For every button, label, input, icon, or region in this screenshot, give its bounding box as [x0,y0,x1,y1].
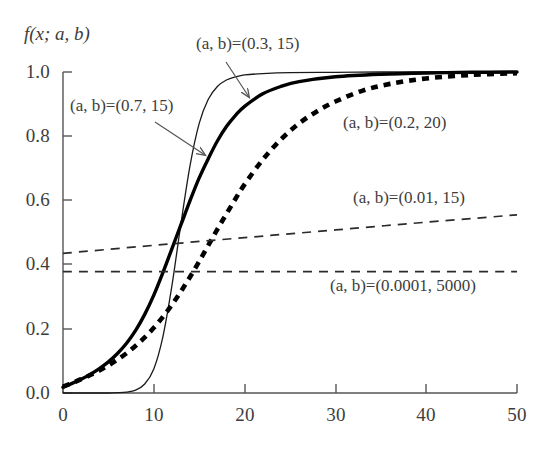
series-label-0.7-15: (a, b)=(0.7, 15) [70,96,174,116]
y-tick-label-0.8: 0.8 [0,125,50,147]
series-label-0.3-15: (a, b)=(0.3, 15) [196,34,300,54]
y-axis-title: f(x; a, b) [24,23,90,45]
annotation-arrow-ann-03-15 [226,62,249,97]
y-tick-label-0.0: 0.0 [0,382,50,404]
axis-lines [63,72,517,393]
x-tick-label-30: 30 [311,404,361,426]
y-axis-ticks [63,72,72,393]
y-tick-label-0.2: 0.2 [0,318,50,340]
x-tick-label-40: 40 [401,404,451,426]
x-tick-label-50: 50 [492,404,542,426]
series-label-0.01-15: (a, b)=(0.01, 15) [353,188,465,208]
y-tick-label-0.4: 0.4 [0,253,50,275]
chart-figure: f(x; a, b) 1.0 0.8 0.6 0.4 0.2 0.0 0 10 … [0,0,545,450]
series-curve-0 [63,72,517,393]
data-curves [63,72,517,393]
y-tick-label-0.6: 0.6 [0,189,50,211]
x-tick-label-0: 0 [38,404,88,426]
y-tick-label-1.0: 1.0 [0,61,50,83]
series-label-0.0001-5000: (a, b)=(0.0001, 5000) [330,276,476,296]
series-curve-1 [63,72,517,387]
series-curve-3 [63,215,517,254]
series-label-0.2-20: (a, b)=(0.2, 20) [343,113,447,133]
x-tick-label-10: 10 [129,404,179,426]
annotation-arrow-ann-07-15 [155,122,205,155]
x-tick-label-20: 20 [220,404,270,426]
plot-canvas [0,0,545,450]
